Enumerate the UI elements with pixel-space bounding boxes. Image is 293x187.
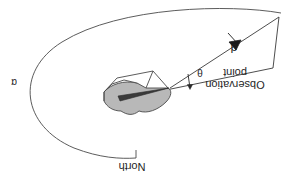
diagram-canvas: Observation point North d θ α xyxy=(0,0,293,187)
observation-geometry-figure xyxy=(0,0,293,187)
north-label: North xyxy=(110,160,154,172)
observation-point-label: Observation point xyxy=(196,66,274,90)
azimuth-angle-label: α xyxy=(8,76,20,87)
distance-label: d xyxy=(227,41,241,54)
elevation-angle-label: θ xyxy=(194,66,206,77)
